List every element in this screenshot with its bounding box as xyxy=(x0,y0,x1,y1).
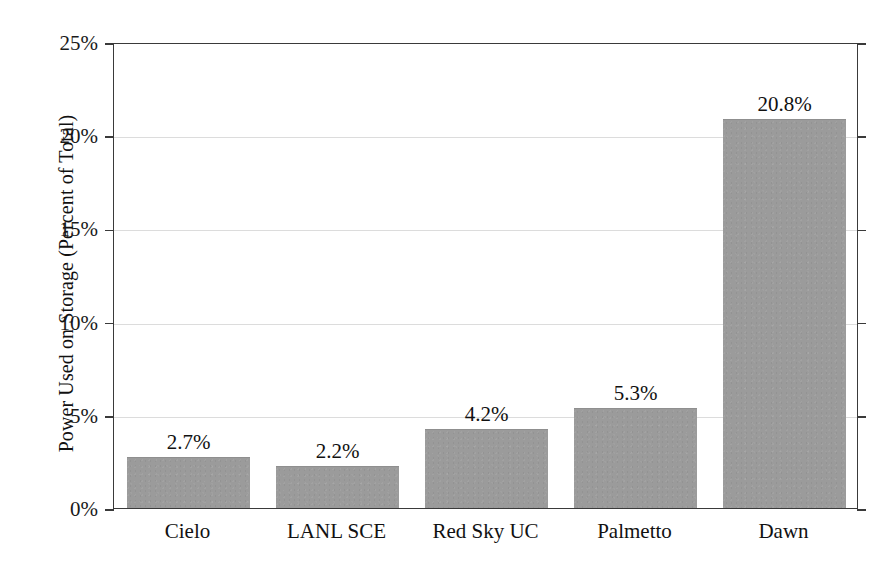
y-axis-tick-label: 5% xyxy=(70,403,98,428)
bar[interactable] xyxy=(425,429,547,508)
bar-value-label: 2.7% xyxy=(167,430,211,455)
y-axis-tick-mark-right xyxy=(857,509,866,511)
bar[interactable] xyxy=(276,466,398,508)
bar-chart-figure: Power Used on Storage (Percent of Total)… xyxy=(0,0,895,567)
y-axis-tick-mark-right xyxy=(857,230,866,232)
y-axis-tick-mark-right xyxy=(857,323,866,325)
y-axis-tick-label: 15% xyxy=(60,217,99,242)
bar[interactable] xyxy=(574,408,696,508)
y-axis-tick-mark xyxy=(105,230,114,232)
y-axis-tick-label: 0% xyxy=(70,497,98,522)
bar[interactable] xyxy=(723,119,845,508)
x-axis-tick-label: LANL SCE xyxy=(287,519,386,544)
x-axis-tick-label: Palmetto xyxy=(597,519,672,544)
y-axis-tick-mark xyxy=(105,416,114,418)
y-axis-tick-mark xyxy=(105,323,114,325)
y-axis-tick-mark xyxy=(105,509,114,511)
y-axis-tick-mark-right xyxy=(857,136,866,138)
y-axis-tick-label: 25% xyxy=(60,31,99,56)
bar-value-label: 2.2% xyxy=(316,439,360,464)
bar-value-label: 4.2% xyxy=(465,402,509,427)
y-axis-tick-mark-right xyxy=(857,416,866,418)
y-axis-tick-mark xyxy=(105,43,114,45)
bar-value-label: 20.8% xyxy=(757,92,811,117)
y-axis-tick-mark-right xyxy=(857,43,866,45)
bar[interactable] xyxy=(127,457,249,508)
x-axis-tick-label: Cielo xyxy=(165,519,211,544)
bar-value-label: 5.3% xyxy=(614,381,658,406)
y-axis-tick-mark xyxy=(105,136,114,138)
x-axis-tick-label: Dawn xyxy=(758,519,808,544)
plot-area: 2.7%2.2%4.2%5.3%20.8% xyxy=(113,43,858,509)
y-axis-tick-label: 20% xyxy=(60,124,99,149)
y-axis-tick-labels: 0%5%10%15%20%25% xyxy=(0,0,104,567)
x-axis-tick-label: Red Sky UC xyxy=(432,519,538,544)
y-axis-tick-label: 10% xyxy=(60,310,99,335)
